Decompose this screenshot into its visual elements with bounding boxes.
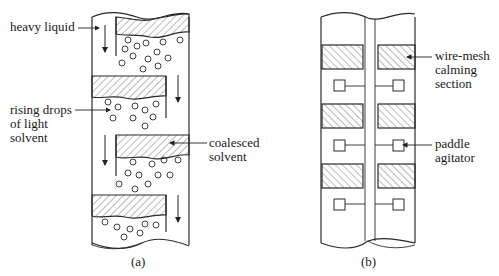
label-paddle-agitator: paddle agitator	[435, 137, 475, 165]
wire-mesh-block	[322, 104, 363, 128]
wire-mesh-block	[378, 104, 415, 128]
label-coalesced-solvent: coalesced solvent	[209, 136, 260, 164]
caption-a: (a)	[131, 254, 145, 270]
leader-lines-b	[403, 57, 432, 145]
label-wire-mesh: wire-mesh calming section	[435, 49, 490, 91]
wire-mesh-block	[322, 164, 363, 188]
column-a	[92, 13, 189, 249]
wire-mesh-block	[322, 45, 363, 69]
label-heavy-liquid: heavy liquid	[10, 20, 75, 34]
caption-b: (b)	[361, 254, 376, 270]
wire-mesh-block	[378, 164, 415, 188]
label-rising-drops: rising drops of light solvent	[10, 103, 72, 145]
column-b	[321, 13, 415, 248]
